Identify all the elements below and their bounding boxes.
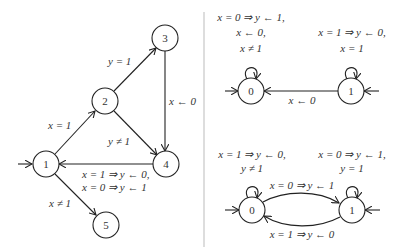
state-node-1: 1: [33, 151, 59, 177]
self-loop-0-label-line-2: x ← 0,: [235, 26, 266, 38]
edge-label-1-to-0-bottom: x = 1 ⇒ y ← 0: [269, 228, 335, 240]
state-node-1-top: 1: [338, 78, 364, 104]
svg-text:1: 1: [348, 85, 354, 97]
self-loop-0-label-line-1: x = 0 ⇒ y ← 1,: [216, 11, 285, 23]
self-loop-1-label-line-2: x = 1: [339, 42, 363, 54]
state-node-4: 4: [153, 151, 179, 177]
edge-2-to-4: [114, 111, 157, 155]
svg-text:0: 0: [249, 204, 255, 216]
diagram-canvas: 1 2 3 4 5 x = 1 y = 1 x ← 0 y ≠ 1 x = 1 …: [0, 0, 401, 251]
svg-text:2: 2: [102, 95, 108, 107]
self-loop-1-top: [345, 68, 357, 79]
state-node-5: 5: [93, 212, 119, 238]
edge-label-1-to-2: x = 1: [47, 119, 71, 131]
svg-text:0: 0: [248, 85, 254, 97]
svg-text:5: 5: [103, 219, 109, 231]
self-loop-1-label-line-1: x = 1 ⇒ y ← 0,: [317, 26, 386, 38]
self-loop-0-top: [245, 68, 257, 79]
state-node-1-bottom: 1: [339, 197, 365, 223]
svg-text:1: 1: [43, 158, 49, 170]
state-node-0-top: 0: [238, 78, 264, 104]
bottom-right-automaton: 0 1 x = 1 ⇒ y ← 0, y ≠ 1 x = 0 ⇒ y ← 1, …: [217, 148, 386, 240]
edge-label-4-to-1-line-2: x = 0 ⇒ y ← 1: [81, 181, 147, 193]
edge-label-4-to-1-line-1: x = 1 ⇒ y ← 0,: [81, 168, 150, 180]
self-loop-1-bottom-label-line-1: x = 0 ⇒ y ← 1,: [317, 148, 386, 160]
self-loop-0-bottom-label-line-2: y ≠ 1: [240, 162, 263, 174]
state-node-2: 2: [92, 88, 118, 114]
svg-text:4: 4: [163, 158, 169, 170]
top-right-automaton: 0 1 x = 0 ⇒ y ← 1, x ← 0, x ≠ 1 x = 1 ⇒ …: [216, 11, 386, 106]
edge-1-to-0-bottom: [264, 216, 340, 226]
self-loop-1-bottom-label-line-2: y = 1: [339, 162, 363, 174]
state-node-3: 3: [152, 25, 178, 51]
state-node-0-bottom: 0: [239, 197, 265, 223]
edge-label-3-to-4: x ← 0: [168, 95, 196, 107]
self-loop-1-bottom: [346, 187, 358, 198]
edge-label-1-to-5: x ≠ 1: [48, 197, 71, 209]
edge-1-to-2: [55, 111, 95, 154]
self-loop-0-bottom: [246, 187, 258, 198]
svg-text:1: 1: [349, 204, 355, 216]
edge-label-1-to-0-top: x ← 0: [288, 94, 316, 106]
edge-label-2-to-4: y ≠ 1: [107, 135, 130, 147]
edge-0-to-1-bottom: [263, 193, 339, 203]
self-loop-0-bottom-label-line-1: x = 1 ⇒ y ← 0,: [217, 148, 286, 160]
edge-label-2-to-3: y = 1: [107, 55, 131, 67]
left-automaton: 1 2 3 4 5 x = 1 y = 1 x ← 0 y ≠ 1 x = 1 …: [18, 25, 196, 238]
svg-text:3: 3: [162, 32, 168, 44]
edge-label-0-to-1-bottom: x = 0 ⇒ y ← 1: [269, 179, 335, 191]
self-loop-0-label-line-3: x ≠ 1: [239, 42, 262, 54]
